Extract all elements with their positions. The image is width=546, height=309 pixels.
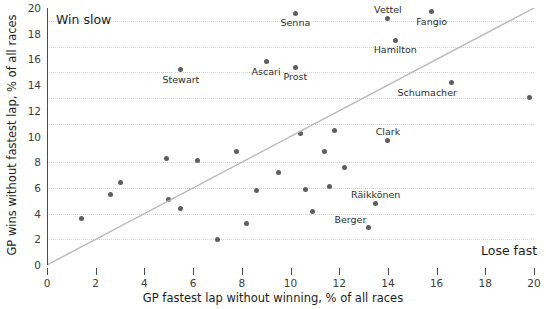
data-point bbox=[322, 149, 327, 154]
x-tick bbox=[193, 268, 194, 275]
x-tick-label: 12 bbox=[333, 277, 346, 289]
y-axis-title: GP wins without fastest lap, % of all ra… bbox=[5, 5, 19, 265]
y-tick-label: 8 bbox=[34, 156, 41, 168]
x-tick bbox=[485, 268, 486, 275]
x-tick bbox=[47, 268, 48, 275]
data-point bbox=[373, 201, 378, 206]
data-point bbox=[293, 65, 298, 70]
x-tick-label: 2 bbox=[92, 277, 99, 289]
gridline bbox=[47, 162, 534, 163]
data-point bbox=[215, 237, 220, 242]
data-point bbox=[303, 187, 308, 192]
data-point bbox=[254, 188, 259, 193]
data-point-label: Stewart bbox=[163, 74, 200, 85]
x-tick bbox=[96, 268, 97, 275]
x-tick bbox=[242, 268, 243, 275]
gridline bbox=[47, 214, 534, 215]
data-point bbox=[429, 9, 434, 14]
data-point bbox=[234, 149, 239, 154]
data-point-label: Clark bbox=[376, 126, 401, 137]
gridline bbox=[47, 98, 534, 99]
data-point bbox=[366, 225, 371, 230]
data-point bbox=[332, 128, 337, 133]
scatter-chart: VettelFangioSennaHamiltonAscariStewartPr… bbox=[0, 0, 546, 309]
data-point bbox=[342, 165, 347, 170]
annotation-win-slow: Win slow bbox=[56, 12, 111, 27]
data-point-label: Prost bbox=[283, 71, 307, 82]
gridline bbox=[47, 239, 534, 240]
y-tick-label: 2 bbox=[34, 233, 41, 245]
data-point bbox=[166, 197, 171, 202]
data-point bbox=[79, 216, 84, 221]
y-tick-label: 0 bbox=[34, 259, 41, 271]
data-point bbox=[264, 59, 269, 64]
x-tick-label: 20 bbox=[527, 277, 540, 289]
data-point bbox=[108, 192, 113, 197]
y-tick-label: 12 bbox=[28, 105, 41, 117]
x-tick-label: 10 bbox=[284, 277, 297, 289]
data-point-label: Senna bbox=[280, 17, 310, 28]
data-point-label: Ascari bbox=[252, 66, 281, 77]
x-tick bbox=[534, 268, 535, 275]
x-tick-label: 18 bbox=[479, 277, 492, 289]
gridline bbox=[47, 124, 534, 125]
y-tick-label: 4 bbox=[34, 208, 41, 220]
y-tick-label: 20 bbox=[28, 2, 41, 14]
y-tick-label: 18 bbox=[28, 28, 41, 40]
gridline bbox=[47, 47, 534, 48]
x-tick bbox=[388, 268, 389, 275]
data-point bbox=[385, 138, 390, 143]
x-tick-label: 4 bbox=[141, 277, 148, 289]
x-tick bbox=[144, 268, 145, 275]
data-point bbox=[118, 180, 123, 185]
data-point bbox=[298, 131, 303, 136]
data-point bbox=[310, 209, 315, 214]
data-point-label: Hamilton bbox=[374, 44, 417, 55]
data-point bbox=[276, 170, 281, 175]
data-point bbox=[164, 156, 169, 161]
y-tick-label: 14 bbox=[28, 79, 41, 91]
x-tick bbox=[437, 268, 438, 275]
data-point-label: Räikkönen bbox=[351, 189, 400, 200]
plot-area: VettelFangioSennaHamiltonAscariStewartPr… bbox=[47, 8, 534, 265]
y-tick-label: 16 bbox=[28, 53, 41, 65]
x-tick bbox=[291, 268, 292, 275]
data-point-label: Berger bbox=[334, 214, 366, 225]
data-point bbox=[449, 80, 454, 85]
data-point bbox=[244, 221, 249, 226]
data-point-label: Schumacher bbox=[398, 87, 457, 98]
data-point bbox=[293, 11, 298, 16]
x-tick-label: 14 bbox=[381, 277, 394, 289]
data-point bbox=[393, 38, 398, 43]
annotation-lose-fast: Lose fast bbox=[481, 243, 537, 258]
y-tick-label: 6 bbox=[34, 182, 41, 194]
y-tick-label: 10 bbox=[28, 131, 41, 143]
x-tick-label: 0 bbox=[44, 277, 51, 289]
x-tick-label: 16 bbox=[430, 277, 443, 289]
data-point-label: Fangio bbox=[416, 16, 447, 27]
gridline bbox=[47, 188, 534, 189]
y-axis-line bbox=[47, 8, 48, 265]
data-point bbox=[178, 206, 183, 211]
data-point bbox=[527, 95, 532, 100]
data-point-label: Vettel bbox=[374, 4, 402, 15]
x-tick bbox=[339, 268, 340, 275]
x-tick-label: 6 bbox=[190, 277, 197, 289]
x-tick-label: 8 bbox=[238, 277, 245, 289]
x-axis-title: GP fastest lap without winning, % of all… bbox=[0, 291, 546, 305]
